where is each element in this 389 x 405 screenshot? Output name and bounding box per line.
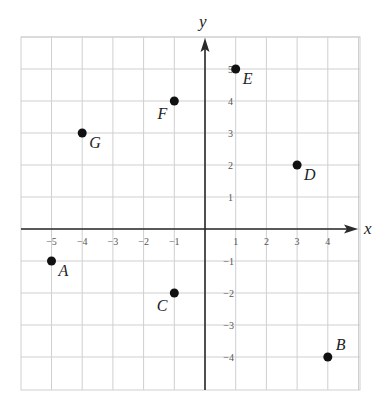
point-d-label: D [303,166,316,183]
point-e-marker [231,65,240,74]
point-g-marker [78,129,87,138]
coordinate-plane: xy −5−4−3−2−1123454321−1−2−3−4 ABCDEFG [0,0,389,405]
x-tick-label: −5 [46,236,57,247]
x-tick-label: −1 [169,236,180,247]
y-tick-label: −4 [223,352,234,363]
point-b-label: B [336,336,346,353]
x-tick-label: −3 [108,236,119,247]
y-tick-label: −3 [223,320,234,331]
grid-border [21,37,360,390]
point-a-marker [47,257,56,266]
x-axis-label: x [363,219,372,238]
point-f-label: F [157,105,168,122]
x-tick-label: 4 [325,236,330,247]
x-tick-label: 2 [264,236,269,247]
point-a-label: A [58,262,69,279]
point-b-marker [323,353,332,362]
x-tick-label: 3 [295,236,300,247]
y-tick-label: 2 [228,160,233,171]
y-axis-label: y [197,12,207,31]
y-tick-label: 1 [228,192,233,203]
x-tick-label: −4 [77,236,88,247]
point-f-marker [170,97,179,106]
x-tick-label: −2 [138,236,149,247]
y-tick-label: −2 [223,288,234,299]
point-c-label: C [157,297,168,314]
point-e-label: E [242,70,253,87]
point-c-marker [170,289,179,298]
grid-lines [21,37,360,390]
data-points: ABCDEFG [47,65,346,362]
tick-labels: −5−4−3−2−1123454321−1−2−3−4 [46,64,330,363]
x-tick-label: 1 [233,236,238,247]
point-g-label: G [89,134,101,151]
y-tick-label: 3 [228,128,233,139]
point-d-marker [293,161,302,170]
y-tick-label: −1 [223,256,234,267]
y-tick-label: 4 [228,96,233,107]
